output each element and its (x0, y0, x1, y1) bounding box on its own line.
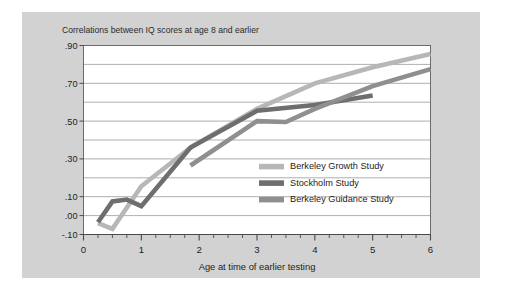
legend-label: Berkeley Growth Study (290, 161, 384, 171)
chart-title: Correlations between IQ scores at age 8 … (62, 25, 259, 35)
line-chart: Correlations between IQ scores at age 8 … (0, 0, 514, 294)
y-tick-label: .70 (65, 79, 78, 89)
y-tick-label: .30 (65, 154, 78, 164)
x-axis-label: Age at time of earlier testing (199, 261, 316, 272)
legend-swatch (259, 197, 284, 203)
y-tick-label: .00 (65, 211, 78, 221)
legend-label: Berkeley Guidance Study (290, 194, 394, 204)
y-tick-label: .50 (65, 117, 78, 127)
x-tick-label: 1 (139, 244, 144, 255)
x-tick-label: 6 (428, 244, 433, 255)
legend-swatch (259, 180, 284, 186)
x-tick-label: 0 (81, 244, 86, 255)
chart-figure: Correlations between IQ scores at age 8 … (0, 0, 514, 294)
y-tick-label: -.10 (62, 230, 78, 240)
legend-swatch (259, 164, 284, 170)
legend-label: Stockholm Study (290, 178, 359, 188)
x-tick-label: 2 (196, 244, 201, 255)
x-tick-label: 4 (312, 244, 318, 255)
y-tick-label: .90 (65, 41, 78, 51)
x-tick-label: 3 (254, 244, 259, 255)
y-tick-label: .10 (65, 192, 78, 202)
x-tick-label: 5 (370, 244, 375, 255)
